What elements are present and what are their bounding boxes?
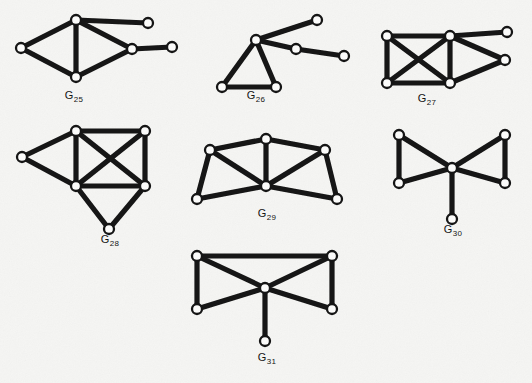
vertex-center: [260, 283, 270, 293]
vertex-top-left: [71, 126, 81, 136]
graph-figures-svg: G25G26G27G28G29G30G31: [0, 0, 532, 383]
vertex-top-left: [394, 130, 404, 140]
vertex-top: [71, 15, 81, 25]
vertex-bottom-mid: [445, 78, 455, 88]
label-letter: G: [444, 223, 453, 235]
label-letter: G: [258, 351, 267, 363]
vertex-pendant: [260, 336, 270, 346]
vertex-bottom-left: [217, 82, 227, 92]
vertex-bottom-left: [192, 194, 202, 204]
label-letter: G: [65, 89, 74, 101]
vertex-top-mid: [445, 31, 455, 41]
vertex-mid-arm: [291, 44, 301, 54]
vertex-top-mid: [261, 134, 271, 144]
label-letter: G: [101, 233, 110, 245]
vertex-apex: [251, 35, 261, 45]
edge-top-to-top-pendant: [76, 20, 148, 23]
vertex-left: [17, 152, 27, 162]
vertex-center: [447, 163, 457, 173]
vertex-top-pendant: [143, 18, 153, 28]
figure-plate: G25G26G27G28G29G30G31: [0, 0, 532, 383]
vertex-top-right: [327, 251, 337, 261]
vertex-left: [16, 43, 26, 53]
label-subscript: 30: [453, 229, 463, 238]
vertex-bottom-left: [192, 304, 202, 314]
label-subscript: 29: [267, 213, 277, 222]
vertex-top-right: [140, 126, 150, 136]
vertex-bottom: [71, 72, 81, 82]
vertex-top-left: [192, 251, 202, 261]
vertex-bottom-left: [382, 78, 392, 88]
label-letter: G: [258, 207, 267, 219]
vertex-bottom-right: [500, 178, 510, 188]
vertex-bottom-right: [327, 304, 337, 314]
vertex-bottom-right: [332, 194, 342, 204]
vertex-bottom-right: [271, 82, 281, 92]
label-subscript: 31: [267, 357, 277, 366]
label-subscript: 27: [427, 98, 437, 107]
vertex-upper-right: [320, 145, 330, 155]
vertex-center: [261, 181, 271, 191]
vertex-mid-left: [71, 181, 81, 191]
label-subscript: 26: [256, 95, 266, 104]
vertex-far-arm: [339, 51, 349, 61]
vertex-top-right: [502, 27, 512, 37]
vertex-far-right: [167, 42, 177, 52]
vertex-top-right: [500, 130, 510, 140]
vertex-upper-left: [205, 145, 215, 155]
label-letter: G: [418, 92, 427, 104]
vertex-bottom-left: [394, 178, 404, 188]
label-subscript: 28: [110, 239, 120, 248]
label-subscript: 25: [74, 95, 84, 104]
vertex-mid-right: [140, 181, 150, 191]
vertex-upper-arm: [312, 15, 322, 25]
vertex-right-hub: [127, 44, 137, 54]
vertex-right-apex: [500, 55, 510, 65]
vertex-top-left: [382, 31, 392, 41]
label-letter: G: [247, 89, 256, 101]
